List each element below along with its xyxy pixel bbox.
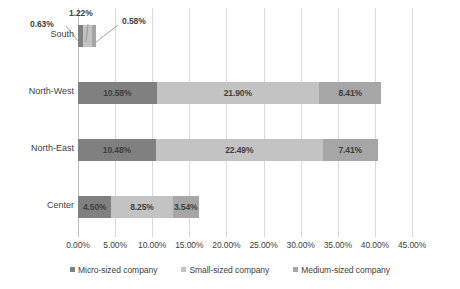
bar-segment[interactable]: 0.58% bbox=[92, 25, 96, 47]
x-axis-tick-label: 0.00% bbox=[66, 240, 90, 250]
gridline-20 bbox=[226, 8, 227, 237]
legend-item[interactable]: Micro-sized company bbox=[70, 265, 157, 275]
bar-row[interactable]: 10.48%22.49%7.41% bbox=[78, 139, 378, 161]
x-axis-tick-label: 15.00% bbox=[175, 240, 203, 250]
x-axis-tick-label: 10.00% bbox=[138, 240, 166, 250]
legend-item[interactable]: Medium-sized company bbox=[293, 265, 390, 275]
bar-segment-value: 10.58% bbox=[78, 82, 157, 104]
bar-segment[interactable]: 10.58% bbox=[78, 82, 157, 104]
bar-segment[interactable]: 8.41% bbox=[319, 82, 381, 104]
legend-item-label: Medium-sized company bbox=[301, 265, 390, 275]
bar-segment-value: 10.48% bbox=[78, 139, 156, 161]
bar-segment[interactable]: 4.50% bbox=[78, 196, 111, 218]
bar-segment[interactable]: 8.25% bbox=[111, 196, 172, 218]
bar-segment[interactable]: 10.48% bbox=[78, 139, 156, 161]
legend-swatch-icon bbox=[70, 267, 75, 272]
x-axis-tick-label: 30.00% bbox=[287, 240, 315, 250]
plot-area: 0.63%1.22%0.58%10.58%21.90%8.41%10.48%22… bbox=[78, 8, 412, 237]
legend-item[interactable]: Small-sized company bbox=[181, 265, 269, 275]
x-axis-tick-label: 40.00% bbox=[361, 240, 389, 250]
bar-segment-value: 8.25% bbox=[111, 196, 172, 218]
x-axis-tick-label: 35.00% bbox=[324, 240, 352, 250]
stacked-bar-chart: South North-West North-East Center 0.63%… bbox=[0, 0, 460, 289]
bar-row[interactable]: 10.58%21.90%8.41% bbox=[78, 82, 381, 104]
bar-segment[interactable]: 21.90% bbox=[157, 82, 320, 104]
bar-row[interactable]: 4.50%8.25%3.54% bbox=[78, 196, 199, 218]
gridline-35 bbox=[338, 8, 339, 237]
x-axis-tick-label: 5.00% bbox=[103, 240, 127, 250]
category-axis: South North-West North-East Center bbox=[0, 8, 74, 237]
legend-item-label: Micro-sized company bbox=[78, 265, 157, 275]
legend-swatch-icon bbox=[293, 267, 298, 272]
legend-item-label: Small-sized company bbox=[189, 265, 269, 275]
bar-segment-value: 8.41% bbox=[319, 82, 381, 104]
category-label-south: South bbox=[2, 29, 74, 40]
bar-segment-value: 22.49% bbox=[156, 139, 323, 161]
x-axis-tick-label: 25.00% bbox=[249, 240, 277, 250]
callout-medium-south: 0.58% bbox=[122, 16, 146, 26]
bar-segment[interactable]: 1.22% bbox=[83, 25, 92, 47]
callout-small-south: 1.22% bbox=[69, 8, 93, 18]
x-axis-tick-label: 45.00% bbox=[398, 240, 426, 250]
x-axis: 0.00%5.00%10.00%15.00%20.00%25.00%30.00%… bbox=[0, 240, 460, 254]
bar-segment[interactable]: 3.54% bbox=[173, 196, 199, 218]
bar-segment[interactable]: 7.41% bbox=[323, 139, 378, 161]
chart-legend: Micro-sized companySmall-sized companyMe… bbox=[0, 259, 460, 273]
category-label-north-east: North-East bbox=[2, 143, 74, 154]
callout-micro-south: 0.63% bbox=[30, 19, 54, 29]
bar-row[interactable]: 0.63%1.22%0.58% bbox=[78, 25, 96, 47]
bar-segment-value: 7.41% bbox=[323, 139, 378, 161]
legend-swatch-icon bbox=[181, 267, 186, 272]
bar-segment-value: 3.54% bbox=[173, 196, 199, 218]
gridline-25 bbox=[264, 8, 265, 237]
x-axis-tick-label: 20.00% bbox=[212, 240, 240, 250]
category-label-center: Center bbox=[2, 200, 74, 211]
gridline-30 bbox=[301, 8, 302, 237]
gridline-40 bbox=[375, 8, 376, 237]
bar-segment-value: 21.90% bbox=[157, 82, 320, 104]
bar-segment-value: 4.50% bbox=[78, 196, 111, 218]
category-label-north-west: North-West bbox=[2, 86, 74, 97]
gridline-45 bbox=[412, 8, 413, 237]
bar-segment[interactable]: 22.49% bbox=[156, 139, 323, 161]
